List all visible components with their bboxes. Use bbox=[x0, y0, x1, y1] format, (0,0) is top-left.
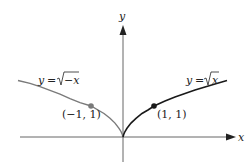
svg-text:−x: −x bbox=[64, 74, 80, 87]
y-axis-arrow-icon bbox=[120, 25, 127, 35]
equation-label-left: y = −x bbox=[37, 72, 80, 87]
point-label-right: (1, 1) bbox=[157, 108, 187, 121]
svg-text:x: x bbox=[212, 74, 219, 87]
point-1-1 bbox=[151, 103, 157, 109]
point-label-left: (−1, 1) bbox=[62, 108, 101, 121]
graph: x y (−1, 1) (1, 1) y = −x y = x bbox=[0, 0, 252, 167]
svg-text:y: y bbox=[37, 74, 45, 87]
equation-label-right: y = x bbox=[185, 72, 219, 87]
x-axis-label: x bbox=[238, 131, 245, 144]
y-axis-label: y bbox=[118, 10, 126, 23]
svg-text:=: = bbox=[47, 74, 56, 87]
svg-text:=: = bbox=[195, 74, 204, 87]
svg-text:y: y bbox=[185, 74, 193, 87]
x-axis-arrow-icon bbox=[226, 134, 236, 141]
